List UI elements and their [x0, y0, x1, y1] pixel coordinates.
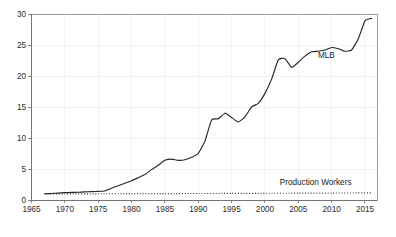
- chart-container: 051015202530 196519701975198019851990199…: [0, 0, 396, 237]
- x-tick-label: 1965: [22, 205, 41, 214]
- series-annotation-mlb: MLB: [318, 51, 335, 60]
- y-tick-label: 15: [17, 103, 27, 112]
- y-tick-label: 5: [21, 165, 26, 174]
- x-tick-label: 2015: [356, 205, 375, 214]
- x-tick-label: 2000: [256, 205, 275, 214]
- y-tick-label: 0: [21, 196, 26, 205]
- series-annotation-production-workers: Production Workers: [280, 178, 352, 187]
- y-tick-label: 25: [17, 41, 27, 50]
- y-tick-label: 20: [17, 72, 27, 81]
- y-tick-label: 10: [17, 134, 27, 143]
- x-tick-label: 1975: [89, 205, 108, 214]
- x-tick-label: 2005: [289, 205, 308, 214]
- x-tick-label: 1990: [189, 205, 208, 214]
- x-tick-label: 1980: [122, 205, 141, 214]
- x-tick-label: 1985: [156, 205, 175, 214]
- x-tick-label: 1970: [56, 205, 75, 214]
- line-chart: 051015202530 196519701975198019851990199…: [0, 0, 396, 237]
- x-tick-label: 2010: [323, 205, 342, 214]
- x-tick-label: 1995: [222, 205, 241, 214]
- y-tick-label: 30: [17, 10, 27, 19]
